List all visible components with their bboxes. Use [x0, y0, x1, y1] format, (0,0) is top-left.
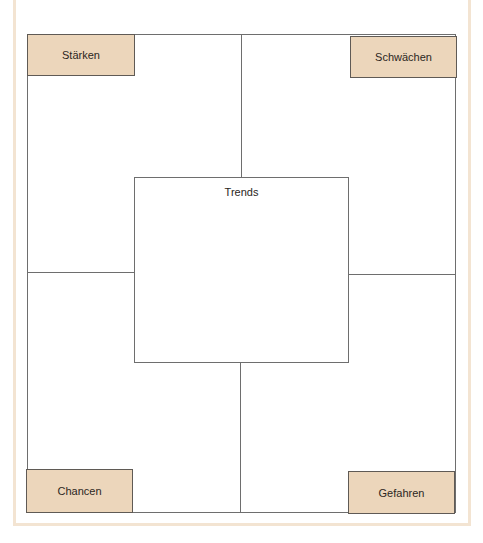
- quadrant-label-opportunities: Chancen: [26, 469, 133, 513]
- divider-left-horizontal: [27, 272, 134, 273]
- divider-right-horizontal: [349, 274, 456, 275]
- center-trends-box: Trends: [134, 177, 349, 363]
- strengths-label: Stärken: [62, 49, 100, 61]
- divider-bottom-vertical: [240, 363, 241, 513]
- quadrant-label-weaknesses: Schwächen: [350, 36, 457, 78]
- threats-label: Gefahren: [379, 487, 425, 499]
- divider-top-vertical: [241, 34, 242, 177]
- weaknesses-label: Schwächen: [375, 51, 432, 63]
- center-trends-label: Trends: [135, 186, 348, 198]
- opportunities-label: Chancen: [57, 485, 101, 497]
- quadrant-label-strengths: Stärken: [27, 34, 135, 76]
- quadrant-label-threats: Gefahren: [348, 471, 455, 514]
